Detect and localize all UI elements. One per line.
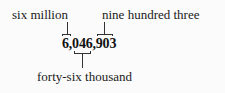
thousands-bracket	[75, 51, 91, 53]
number: 6,046,903	[62, 37, 116, 51]
label-thousands: forty-six thousand	[37, 70, 132, 83]
